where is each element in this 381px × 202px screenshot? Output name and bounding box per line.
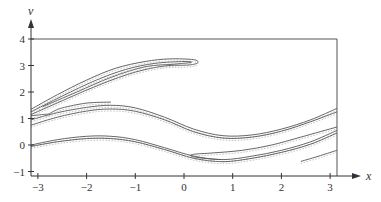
- curve-hatch-upper-tongue-outer: [31, 61, 198, 117]
- curve-lower-tongue: [190, 127, 336, 160]
- curve-upper-tongue-inner: [31, 61, 192, 111]
- curve-middle-band-b: [31, 109, 337, 138]
- x-axis-label: x: [365, 169, 372, 183]
- curve-hatch-upper-tongue-inner: [31, 63, 192, 113]
- y-tick-label: 4: [20, 33, 26, 45]
- x-tick-label: −1: [129, 181, 141, 193]
- axes: −3−2−10123−101234: [13, 19, 361, 193]
- curve-lower-right-segment: [301, 150, 337, 161]
- x-tick-label: −3: [32, 181, 44, 193]
- x-tick-label: −2: [81, 181, 93, 193]
- x-tick-label: 0: [181, 181, 187, 193]
- curve-hatch-middle-band-a: [31, 107, 337, 138]
- curve-middle-band-a: [31, 105, 337, 136]
- y-tick-label: 1: [20, 113, 26, 125]
- y-axis-label: v: [28, 4, 34, 18]
- y-tick-label: 0: [20, 139, 26, 151]
- x-axis-arrow-icon: [352, 173, 361, 179]
- y-tick-label: −1: [13, 166, 25, 178]
- x-tick-label: 1: [230, 181, 236, 193]
- y-tick-label: 3: [20, 60, 26, 72]
- curve-hatch-lower-right-segment: [301, 152, 337, 163]
- phase-portrait-chart: −3−2−10123−101234 x v: [0, 0, 381, 202]
- x-tick-label: 2: [279, 181, 285, 193]
- manifold-curves: [31, 59, 337, 164]
- y-tick-label: 2: [20, 86, 26, 98]
- y-axis-arrow-icon: [28, 19, 34, 28]
- x-tick-label: 3: [327, 181, 333, 193]
